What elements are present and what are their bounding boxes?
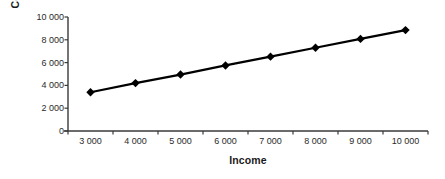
- data-point-marker: [131, 79, 139, 87]
- data-point-marker: [176, 70, 184, 78]
- data-point-marker: [221, 61, 229, 69]
- chart-container: Consumption 02 0004 0006 0008 00010 000 …: [0, 0, 445, 179]
- axis-ticks-group: [65, 17, 429, 135]
- data-point-marker: [356, 35, 364, 43]
- chart-plot-svg: [0, 0, 445, 179]
- data-point-marker: [86, 88, 94, 96]
- data-point-marker: [401, 26, 409, 34]
- x-tick-label: 10 000: [376, 136, 436, 147]
- data-point-marker: [266, 52, 274, 60]
- x-axis-title: Income: [68, 154, 428, 166]
- data-point-marker: [311, 44, 319, 52]
- x-axis-tick-labels: 3 0004 0005 0006 0007 0008 0009 00010 00…: [68, 136, 428, 150]
- axis-lines-group: [64, 17, 428, 131]
